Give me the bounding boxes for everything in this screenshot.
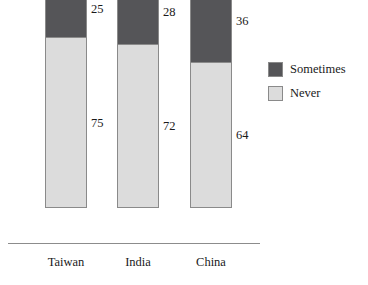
bar-group-india: 28 72	[117, 0, 159, 208]
bar-value-label-sometimes: 25	[91, 3, 104, 16]
bar-stack	[45, 0, 87, 208]
legend-item-sometimes: Sometimes	[268, 58, 368, 80]
bar-value-label-never: 75	[91, 117, 104, 130]
x-axis-label-taiwan: Taiwan	[26, 256, 106, 269]
legend-swatch-icon	[268, 86, 283, 101]
bar-segment-sometimes	[117, 0, 159, 44]
legend-label: Never	[290, 87, 321, 100]
legend-label: Sometimes	[290, 63, 346, 76]
x-axis-label-china: China	[171, 256, 251, 269]
bar-segment-sometimes	[190, 0, 232, 62]
bar-group-china: 36 64	[190, 0, 232, 208]
bar-value-label-sometimes: 36	[236, 15, 249, 28]
bar-segment-never	[190, 62, 232, 208]
bar-stack	[117, 0, 159, 208]
bar-stack	[190, 0, 232, 208]
bar-value-label-never: 72	[163, 120, 176, 133]
bar-segment-sometimes	[45, 0, 87, 37]
bar-group-taiwan: 25 75	[45, 0, 87, 208]
legend-swatch-icon	[268, 62, 283, 77]
bar-value-label-never: 64	[236, 129, 249, 142]
x-axis-line	[8, 243, 260, 244]
legend-item-never: Never	[268, 82, 368, 104]
stacked-bar-chart: 25 75 28 72 36 64 Taiwan India China	[0, 0, 368, 285]
bar-segment-never	[117, 44, 159, 208]
plot-area: 25 75 28 72 36 64 Taiwan India China	[0, 0, 268, 250]
bar-segment-never	[45, 37, 87, 208]
legend: Sometimes Never	[268, 58, 368, 106]
x-axis-label-india: India	[98, 256, 178, 269]
bar-value-label-sometimes: 28	[163, 6, 176, 19]
